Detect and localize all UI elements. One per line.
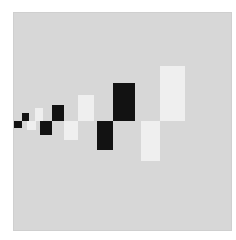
white-rectangle-w1 [27, 121, 36, 130]
artwork-frame: Geometric composition of black and white… [0, 0, 236, 240]
white-rectangle-w3 [64, 121, 78, 140]
artwork-canvas [13, 12, 232, 231]
black-rectangle-b1 [14, 121, 22, 128]
white-rectangle-w4 [78, 95, 94, 121]
white-rectangle-w6 [160, 66, 185, 121]
black-rectangle-b4 [52, 105, 64, 121]
artwork-title: Geometric composition of black and white… [0, 0, 1, 1]
white-rectangle-w5 [141, 121, 160, 161]
black-rectangle-b3 [40, 121, 52, 135]
black-rectangle-b5 [97, 121, 113, 150]
black-rectangle-b2 [22, 113, 29, 121]
white-rectangle-w2 [35, 108, 43, 121]
black-rectangle-b6 [113, 83, 135, 121]
